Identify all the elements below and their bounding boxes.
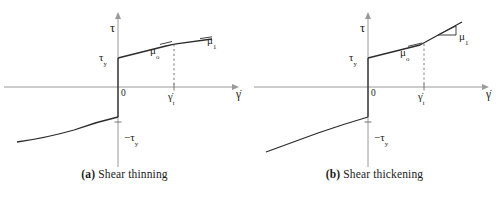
transition-rate-subscript-a: t: [173, 99, 175, 106]
figure-shear-behaviour: τ τy 0 γ̇ γ̇t −τy μo μ1 (a) Shear thinni…: [0, 0, 499, 202]
mu-1-subscript-b: 1: [465, 39, 468, 46]
transition-rate-subscript-b: t: [423, 99, 425, 106]
slope-tick-mu-1-b: [438, 26, 456, 35]
panel-shear-thickening: τ τy 0 γ̇ γ̇t −τy μo μ1 (b) Shear thicke…: [250, 0, 499, 202]
y-axis-label-b: τ: [360, 22, 365, 35]
slope-mu-1-label-b: μ1: [459, 31, 468, 45]
curve-lower-seg-b: [266, 117, 368, 152]
origin-label-a: 0: [121, 89, 126, 99]
y-axis-arrow-a: [115, 12, 121, 19]
negative-yield-stress-label-a: −τy: [124, 132, 138, 146]
y-axis-label-a: τ: [110, 22, 115, 35]
transition-rate-label-b: γ̇t: [418, 92, 424, 105]
mu-o-subscript-a: o: [156, 53, 159, 60]
origin-label-b: 0: [371, 89, 376, 99]
caption-text-a: Shear thinning: [98, 168, 168, 180]
curve-upper-seg-a: [118, 39, 212, 58]
negative-yield-subscript-a: y: [135, 140, 138, 147]
negative-yield-stress-label-b: −τy: [374, 132, 388, 146]
slope-mu-1-label-a: μ1: [207, 35, 216, 49]
slope-mu-o-label-a: μo: [150, 45, 159, 59]
negative-yield-symbol-a: −τ: [124, 131, 135, 143]
yield-stress-symbol-a: τ: [99, 51, 103, 63]
transition-rate-label-a: γ̇t: [168, 92, 174, 105]
negative-yield-symbol-b: −τ: [374, 131, 385, 143]
caption-text-b: Shear thickening: [343, 168, 423, 180]
mu-1-subscript-a: 1: [213, 43, 216, 50]
negative-yield-subscript-b: y: [385, 140, 388, 147]
slope-mu-o-label-b: μo: [400, 47, 409, 61]
caption-a: (a) Shear thinning: [0, 168, 249, 180]
transition-rate-symbol-a: γ̇: [168, 91, 173, 102]
caption-b: (b) Shear thickening: [250, 168, 499, 180]
curve-upper-seg-b: [368, 22, 462, 58]
x-axis-label-b: γ̇: [486, 89, 491, 101]
caption-tag-a: (a): [81, 168, 95, 180]
yield-stress-subscript-b: y: [354, 60, 357, 67]
slope-tick-mu-o-a: [160, 42, 172, 45]
panel-shear-thinning: τ τy 0 γ̇ γ̇t −τy μo μ1 (a) Shear thinni…: [0, 0, 249, 202]
y-axis-arrow-b: [365, 12, 371, 19]
caption-tag-b: (b): [326, 168, 341, 180]
transition-rate-symbol-b: γ̇: [418, 91, 423, 102]
x-axis-label-a: γ̇: [236, 89, 241, 101]
curve-lower-seg-a: [17, 117, 118, 142]
yield-stress-label-b: τy: [349, 52, 357, 66]
yield-stress-subscript-a: y: [104, 60, 107, 67]
yield-stress-symbol-b: τ: [349, 51, 353, 63]
mu-o-subscript-b: o: [406, 55, 409, 62]
yield-stress-label-a: τy: [99, 52, 107, 66]
